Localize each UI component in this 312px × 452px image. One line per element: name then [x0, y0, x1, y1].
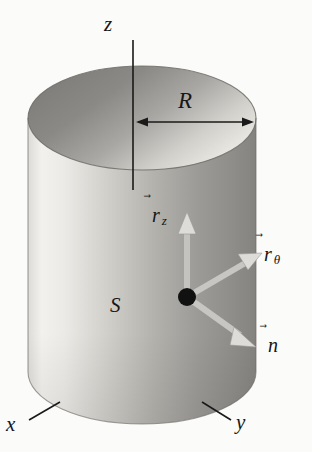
surface-label: S	[110, 295, 121, 316]
r-z-subscript: z	[162, 213, 167, 228]
n-base-text: n	[268, 334, 278, 356]
r-z-base-text: r	[152, 204, 160, 226]
r-theta-base: ⃗r	[264, 243, 272, 265]
n-base: ⃗n	[268, 334, 278, 356]
x-leader-line	[29, 402, 60, 420]
x-axis-label: x	[6, 414, 15, 435]
r-theta-vector-label: ⃗rθ	[264, 244, 280, 266]
cylinder-top-face	[28, 66, 256, 170]
r-z-base: ⃗r	[152, 204, 160, 226]
surface-point	[178, 288, 196, 306]
y-axis-label: y	[236, 412, 245, 433]
n-vector-label: ⃗n	[268, 335, 280, 357]
radius-label: R	[178, 89, 192, 112]
r-z-vector-label: ⃗rz	[152, 205, 167, 227]
z-axis-label: z	[104, 14, 112, 35]
figure-canvas: z R S x y ⃗rz ⃗rθ ⃗n	[0, 0, 312, 452]
r-theta-subscript: θ	[274, 252, 280, 267]
r-theta-base-text: r	[264, 243, 272, 265]
